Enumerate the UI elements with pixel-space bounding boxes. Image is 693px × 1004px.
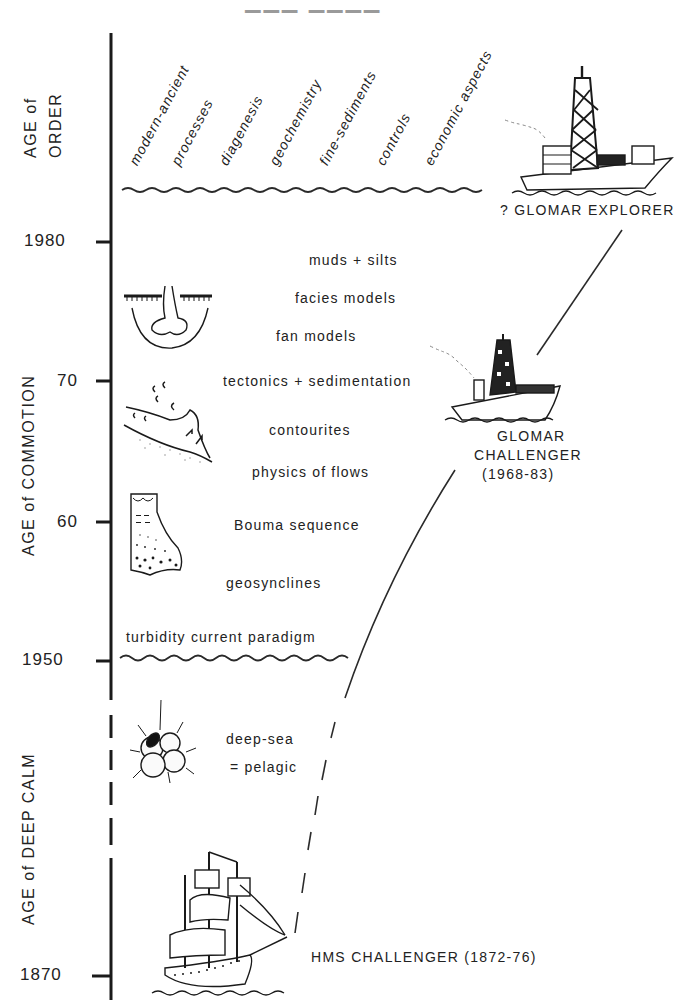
sailing-ship-icon	[152, 852, 287, 995]
diagram-linework	[0, 0, 693, 1004]
unconformity-1950	[120, 656, 348, 661]
bouma-sequence-core-icon	[131, 494, 182, 575]
unconformity-order	[122, 188, 482, 192]
tick-label-1870: 1870	[20, 965, 62, 985]
topic-muds-silts: muds + silts	[309, 252, 398, 268]
topic-facies-models: facies models	[295, 290, 396, 306]
age-label-commotion: AGE of COMMOTION	[20, 375, 38, 556]
topic-bouma-sequence: Bouma sequence	[234, 517, 360, 533]
tick-label-60: 60	[57, 512, 78, 532]
drill-ship-icon	[430, 334, 560, 422]
time-axis	[92, 33, 111, 1000]
ship-label-glomar-explorer: ? GLOMAR EXPLORER	[500, 201, 675, 220]
tick-label-1980: 1980	[24, 231, 66, 251]
age-label-order-line2: ORDER	[47, 93, 65, 158]
ship-label-glomar-line2: CHALLENGER	[474, 446, 582, 465]
tick-label-1950: 1950	[22, 650, 64, 670]
ship-label-glomar-line3: (1968-83)	[482, 465, 554, 484]
contourite-seabed-stipple	[139, 439, 201, 463]
bouma-graded-dots	[136, 515, 178, 569]
age-label-order-line1: AGE of	[22, 97, 40, 158]
topic-contourites: contourites	[269, 422, 351, 438]
ship-label-glomar-line1: GLOMAR	[497, 427, 565, 446]
topic-deep-sea: deep-sea	[226, 731, 294, 747]
topic-fan-models: fan models	[276, 328, 356, 344]
ship-label-hms-challenger: HMS CHALLENGER (1872-76)	[311, 948, 537, 967]
submarine-fan-icon	[124, 286, 212, 348]
topic-turbidity-current-paradigm: turbidity current paradigm	[126, 629, 316, 645]
topic-geosynclines: geosynclines	[226, 575, 321, 591]
drill-ship-icon	[505, 66, 672, 195]
tick-label-70: 70	[57, 371, 78, 391]
topic-tectonics-sedimentation: tectonics + sedimentation	[223, 373, 411, 389]
contourite-current-icon	[124, 382, 212, 462]
age-label-deep-calm: AGE of DEEP CALM	[20, 753, 38, 925]
topic-pelagic: = pelagic	[230, 759, 297, 775]
topic-physics-of-flows: physics of flows	[252, 464, 369, 480]
foraminifera-icon	[130, 700, 196, 783]
